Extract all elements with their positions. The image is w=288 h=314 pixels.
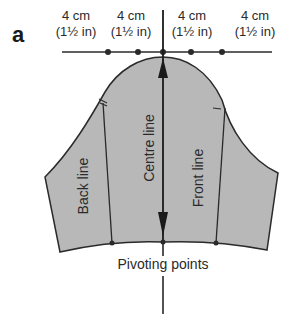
mark-dot	[219, 49, 225, 55]
measurement-metric: 4 cm	[165, 8, 219, 24]
measurement-label-3: 4 cm (1½ in)	[165, 8, 219, 40]
figure-letter: a	[12, 22, 24, 48]
measurement-imperial: (1½ in)	[104, 24, 158, 40]
measurement-label-2: 4 cm (1½ in)	[104, 8, 158, 40]
front-line-label: Front line	[190, 149, 206, 207]
centre-line-label: Centre line	[141, 114, 157, 182]
measurement-metric: 4 cm	[104, 8, 158, 24]
measurement-label-1: 4 cm (1½ in)	[49, 8, 103, 40]
measurement-imperial: (1½ in)	[228, 24, 282, 40]
mark-dot	[105, 49, 111, 55]
pivot-point-front	[214, 241, 219, 246]
mark-dot	[188, 49, 194, 55]
pivot-points-label: Pivoting points	[0, 256, 288, 272]
measurement-metric: 4 cm	[228, 8, 282, 24]
pivot-point-centre	[161, 240, 166, 245]
measurement-metric: 4 cm	[49, 8, 103, 24]
measurement-label-4: 4 cm (1½ in)	[228, 8, 282, 40]
pivot-point-back	[110, 241, 115, 246]
mark-dot	[135, 49, 141, 55]
measurement-imperial: (1½ in)	[49, 24, 103, 40]
measurement-imperial: (1½ in)	[165, 24, 219, 40]
back-line-label: Back line	[75, 158, 91, 215]
